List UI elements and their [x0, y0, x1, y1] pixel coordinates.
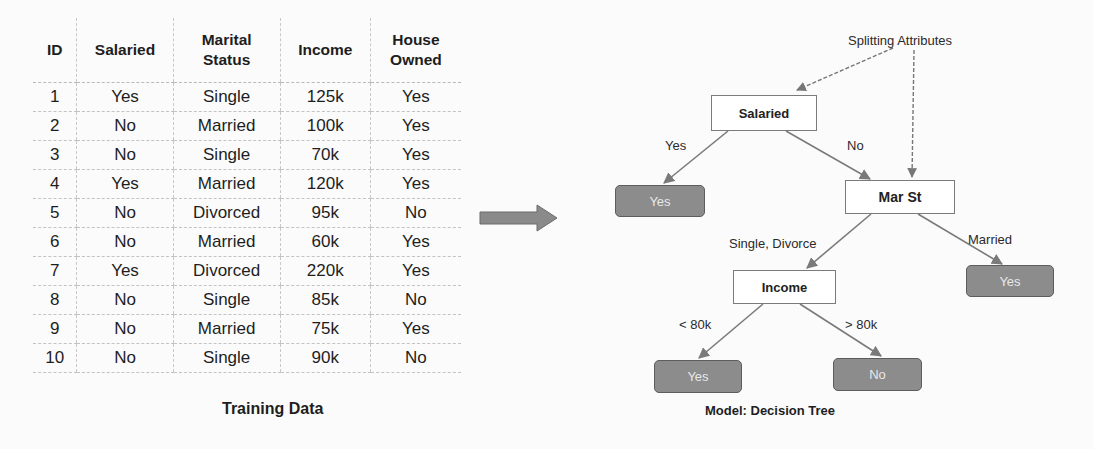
table-row: 7YesDivorced220kYes — [33, 257, 461, 286]
column-header-label-line2: Status — [203, 51, 250, 68]
cell-owned: No — [370, 344, 461, 373]
leaf-label: No — [869, 367, 886, 382]
leaf-yes-low-income: Yes — [654, 360, 742, 393]
cell-owned: Yes — [370, 315, 461, 344]
splitting-pointer-salaried — [797, 48, 893, 90]
decision-tree-caption: Model: Decision Tree — [705, 403, 835, 418]
cell-id: 10 — [33, 344, 77, 373]
leaf-label: Yes — [999, 274, 1020, 289]
cell-salaried: No — [77, 344, 173, 373]
cell-income: 95k — [280, 199, 370, 228]
cell-salaried: No — [77, 141, 173, 170]
node-label: Income — [762, 280, 808, 295]
cell-id: 6 — [33, 228, 77, 257]
leaf-yes-salaried: Yes — [615, 185, 705, 217]
cell-id: 3 — [33, 141, 77, 170]
node-income: Income — [733, 270, 836, 304]
cell-id: 4 — [33, 170, 77, 199]
table-header-row: ID Salaried MaritalStatus Income HouseOw… — [33, 18, 461, 83]
cell-marital: Married — [173, 315, 280, 344]
column-header-income: Income — [280, 18, 370, 83]
cell-income: 125k — [280, 83, 370, 112]
column-header-marital-status: MaritalStatus — [173, 18, 280, 83]
column-header-label: Income — [298, 41, 352, 58]
cell-marital: Married — [173, 112, 280, 141]
column-header-label: Salaried — [95, 41, 155, 58]
node-label: Mar St — [879, 189, 922, 205]
cell-marital: Single — [173, 344, 280, 373]
cell-id: 8 — [33, 286, 77, 315]
cell-owned: Yes — [370, 83, 461, 112]
training-data-table: ID Salaried MaritalStatus Income HouseOw… — [33, 18, 461, 373]
column-header-label-line1: House — [392, 31, 439, 48]
splitting-pointer-marst — [912, 50, 914, 177]
cell-marital: Married — [173, 170, 280, 199]
cell-income: 100k — [280, 112, 370, 141]
cell-marital: Single — [173, 286, 280, 315]
cell-id: 2 — [33, 112, 77, 141]
column-header-house-owned: HouseOwned — [370, 18, 461, 83]
training-data-caption: Training Data — [222, 400, 323, 418]
leaf-yes-married: Yes — [966, 265, 1054, 297]
cell-salaried: Yes — [77, 83, 173, 112]
cell-income: 90k — [280, 344, 370, 373]
edge-label-yes: Yes — [665, 138, 686, 153]
training-data-table-container: ID Salaried MaritalStatus Income HouseOw… — [33, 18, 461, 373]
leaf-label: Yes — [649, 194, 670, 209]
cell-owned: Yes — [370, 257, 461, 286]
cell-id: 1 — [33, 83, 77, 112]
node-marital-status: Mar St — [845, 180, 955, 214]
cell-income: 120k — [280, 170, 370, 199]
right-arrow-icon — [479, 204, 559, 232]
edge-label-single-divorce: Single, Divorce — [729, 236, 816, 251]
cell-owned: No — [370, 199, 461, 228]
table-row: 2NoMarried100kYes — [33, 112, 461, 141]
edge-label-greater-80k: > 80k — [845, 317, 877, 332]
cell-marital: Married — [173, 228, 280, 257]
cell-marital: Divorced — [173, 257, 280, 286]
cell-salaried: Yes — [77, 170, 173, 199]
cell-owned: Yes — [370, 112, 461, 141]
cell-income: 60k — [280, 228, 370, 257]
cell-salaried: Yes — [77, 257, 173, 286]
leaf-no-high-income: No — [833, 358, 922, 391]
cell-income: 75k — [280, 315, 370, 344]
cell-marital: Single — [173, 141, 280, 170]
column-header-label-line2: Owned — [390, 51, 442, 68]
cell-salaried: No — [77, 286, 173, 315]
table-row: 6NoMarried60kYes — [33, 228, 461, 257]
node-label: Salaried — [739, 106, 790, 121]
cell-owned: Yes — [370, 170, 461, 199]
cell-salaried: No — [77, 199, 173, 228]
cell-income: 220k — [280, 257, 370, 286]
cell-id: 7 — [33, 257, 77, 286]
cell-income: 85k — [280, 286, 370, 315]
edge-label-married: Married — [968, 232, 1012, 247]
cell-salaried: No — [77, 315, 173, 344]
column-header-label-line1: Marital — [202, 31, 252, 48]
column-header-label: ID — [47, 41, 63, 58]
edge-label-no: No — [847, 138, 864, 153]
leaf-label: Yes — [687, 369, 708, 384]
splitting-attributes-label: Splitting Attributes — [848, 33, 952, 48]
cell-owned: Yes — [370, 228, 461, 257]
table-row: 9NoMarried75kYes — [33, 315, 461, 344]
column-header-id: ID — [33, 18, 77, 83]
table-row: 5NoDivorced95kNo — [33, 199, 461, 228]
edge-marst-single-divorce — [807, 214, 871, 268]
cell-id: 5 — [33, 199, 77, 228]
cell-owned: No — [370, 286, 461, 315]
cell-marital: Divorced — [173, 199, 280, 228]
table-row: 1YesSingle125kYes — [33, 83, 461, 112]
cell-salaried: No — [77, 228, 173, 257]
cell-income: 70k — [280, 141, 370, 170]
cell-marital: Single — [173, 83, 280, 112]
table-row: 4YesMarried120kYes — [33, 170, 461, 199]
column-header-salaried: Salaried — [77, 18, 173, 83]
table-row: 10NoSingle90kNo — [33, 344, 461, 373]
cell-salaried: No — [77, 112, 173, 141]
table-row: 8NoSingle85kNo — [33, 286, 461, 315]
table-row: 3NoSingle70kYes — [33, 141, 461, 170]
cell-id: 9 — [33, 315, 77, 344]
node-salaried: Salaried — [711, 95, 817, 131]
